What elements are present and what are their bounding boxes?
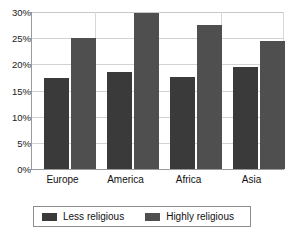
x-tick-label-asia: Asia xyxy=(220,174,283,186)
x-tick-label-africa: Africa xyxy=(157,174,220,186)
bar-africa-highly-religious xyxy=(197,25,222,169)
bar-europe-highly-religious xyxy=(71,38,96,169)
bar-america-less-religious xyxy=(107,72,132,169)
x-tick-label-america: America xyxy=(94,174,157,186)
bar-africa-less-religious xyxy=(170,77,195,169)
legend-label-highly-religious: Highly religious xyxy=(166,211,234,222)
plot-area xyxy=(31,12,284,170)
chart-legend: Less religious Highly religious xyxy=(33,206,251,227)
legend-label-less-religious: Less religious xyxy=(63,211,124,222)
bar-europe-less-religious xyxy=(44,78,69,169)
bar-asia-less-religious xyxy=(233,67,258,169)
legend-item-highly-religious: Highly religious xyxy=(145,211,234,222)
legend-swatch-icon-highly-religious xyxy=(145,213,160,221)
y-axis: 30% 25% 20% 15% 10% 5% 0% xyxy=(0,0,31,181)
bar-america-highly-religious xyxy=(134,13,159,169)
legend-item-less-religious: Less religious xyxy=(42,211,124,222)
bar-chart: 30% 25% 20% 15% 10% 5% 0% xyxy=(0,0,287,235)
legend-swatch-icon-less-religious xyxy=(42,213,57,221)
x-tick-label-europe: Europe xyxy=(31,174,94,186)
bar-asia-highly-religious xyxy=(260,41,285,169)
